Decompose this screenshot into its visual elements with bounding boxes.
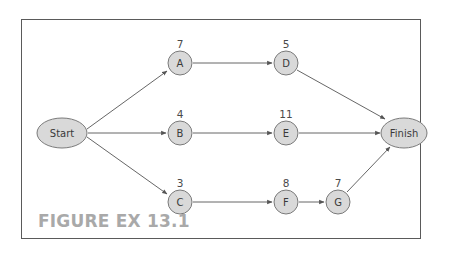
node-a: 7 A xyxy=(168,38,192,75)
node-b-label: B xyxy=(177,128,184,139)
edge-d-finish xyxy=(297,70,385,119)
node-b: 4 B xyxy=(168,108,192,145)
node-f-duration: 8 xyxy=(283,177,290,189)
node-e-duration: 11 xyxy=(279,108,292,120)
node-a-label: A xyxy=(177,58,184,69)
node-g-duration: 7 xyxy=(335,177,342,189)
node-e-label: E xyxy=(283,128,289,139)
edge-g-finish xyxy=(347,147,390,192)
node-d: 5 D xyxy=(274,38,298,75)
edge-start-a xyxy=(87,71,167,129)
node-c-duration: 3 xyxy=(177,177,184,189)
edge-start-c xyxy=(87,137,167,194)
node-finish-label: Finish xyxy=(390,128,418,139)
node-e: 11 E xyxy=(274,108,298,145)
node-c-label: C xyxy=(177,197,184,208)
node-d-label: D xyxy=(282,58,290,69)
node-d-duration: 5 xyxy=(283,38,290,50)
node-c: 3 C xyxy=(168,177,192,214)
node-b-duration: 4 xyxy=(177,108,184,120)
node-f-label: F xyxy=(283,197,289,208)
node-f: 8 F xyxy=(274,177,298,214)
node-a-duration: 7 xyxy=(177,38,184,50)
node-finish: Finish xyxy=(381,118,427,148)
network-diagram-figure: Start 7 A 4 B 3 C 5 D 11 xyxy=(0,0,463,264)
node-g-label: G xyxy=(334,197,342,208)
node-start-label: Start xyxy=(50,128,75,139)
node-start: Start xyxy=(37,118,87,148)
node-g: 7 G xyxy=(326,177,350,214)
figure-caption: FIGURE EX 13.1 xyxy=(38,211,190,231)
